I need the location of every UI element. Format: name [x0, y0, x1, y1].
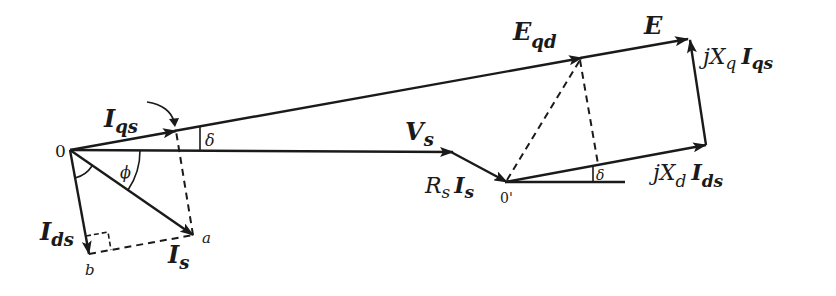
phi-label: ϕ	[120, 163, 131, 182]
origin-label: 0	[55, 141, 66, 161]
e-vector	[580, 39, 688, 58]
dash-0prime-to-eqd	[507, 60, 580, 180]
e-label: E	[643, 11, 663, 40]
projection-a-to-q	[176, 131, 193, 235]
jxdids-label: jXdIds	[648, 159, 724, 191]
jxqiqs-label: jXqIqs	[698, 43, 774, 73]
origin-prime-label: 0'	[500, 190, 513, 206]
b-label: b	[85, 261, 95, 279]
ids-is-angle-arc	[75, 166, 92, 178]
q-axis-line	[174, 58, 582, 131]
iqs-label: Iqs	[103, 104, 138, 137]
a-label: a	[202, 229, 211, 247]
vs-vector	[70, 150, 453, 152]
dash-eqd-to-d-axis	[580, 60, 598, 164]
is-label: Is	[167, 240, 189, 273]
phasor-diagram: 0 Iqs δ ϕ Ids b a Is Vs RsIs 0' δ Eqd E …	[0, 0, 836, 296]
delta-top-label: δ	[205, 131, 215, 150]
delta-bottom-label: δ	[596, 167, 604, 183]
right-angle-marker	[86, 232, 111, 250]
eqd-label: Eqd	[512, 17, 557, 52]
rsis-label: RsIs	[424, 172, 475, 202]
rotation-arrow-head	[169, 118, 179, 127]
ids-label: Ids	[39, 217, 74, 250]
is-vector	[70, 150, 193, 235]
vs-label: Vs	[405, 117, 434, 150]
